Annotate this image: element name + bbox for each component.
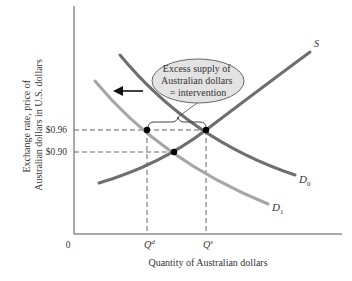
label-d1: D1 — [271, 201, 284, 216]
x-tick-qd: Qd — [144, 238, 155, 250]
y-axis-label: Exchange rate, price of Australian dolla… — [21, 59, 44, 191]
y-tick-090: $0.90 — [46, 147, 68, 157]
exchange-rate-chart: Excess supply of Australian dollars = in… — [0, 0, 352, 281]
origin-label: 0 — [66, 240, 71, 250]
label-s: S — [314, 38, 319, 49]
label-d0: D0 — [298, 173, 311, 188]
x-axis-label: Quantity of Australian dollars — [148, 257, 267, 268]
x-tick-qs: Qs — [203, 238, 213, 250]
annotation-line-1: Excess supply of — [163, 63, 231, 74]
point-qs-096 — [203, 127, 209, 133]
annotation-line-2: Australian dollars — [161, 75, 232, 86]
annotation-line-3: = intervention — [170, 87, 226, 98]
left-arrow-icon — [113, 86, 143, 96]
svg-text:Excess supply of Australia: Excess supply of Australian dollars = in… — [161, 63, 235, 98]
point-equilibrium-090 — [171, 149, 177, 155]
point-qd-096 — [144, 127, 150, 133]
y-tick-096: $0.96 — [46, 125, 68, 135]
